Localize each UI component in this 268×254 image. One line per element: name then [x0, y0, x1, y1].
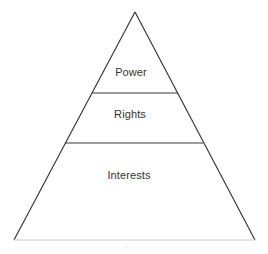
tier-label-interests: Interests — [107, 169, 150, 181]
tier-label-rights: Rights — [114, 108, 146, 120]
pyramid-shape — [0, 0, 268, 254]
stray-mark — [125, 246, 126, 247]
pyramid-diagram: Power Rights Interests — [0, 0, 268, 254]
tier-label-power: Power — [115, 66, 147, 78]
pyramid-left-edge — [14, 12, 135, 240]
pyramid-right-edge — [135, 12, 255, 240]
